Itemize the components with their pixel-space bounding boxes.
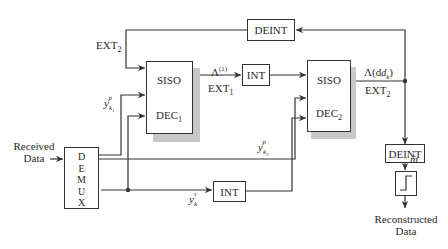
received-data-label: Received Data: [12, 140, 56, 164]
ext2-output-label: EXT2: [365, 84, 390, 101]
ys-to-siso1-arrow: [128, 116, 145, 190]
siso-dec1-block: SISO DEC1: [146, 61, 193, 134]
int-to-siso2-lower-arrow: [246, 118, 306, 191]
siso2-label: SISO: [317, 74, 341, 86]
m-hat-label: m̂: [410, 153, 418, 165]
dec1-label: DEC1: [156, 109, 182, 126]
int-top-label: INT: [247, 69, 265, 81]
junction-dot: [403, 79, 407, 83]
int-bottom-label: INT: [220, 186, 238, 198]
int-top-block: INT: [242, 64, 270, 86]
diagram-connections: [0, 0, 448, 249]
yk1p-label: yk1p: [104, 97, 118, 117]
ext2-feedback-label: EXT2: [96, 39, 121, 56]
junction-dot: [126, 188, 130, 192]
deint-top-label: DEINT: [255, 24, 288, 36]
demux-block: D E M U X: [64, 147, 99, 209]
yk2p-label: yk2p: [258, 141, 272, 161]
siso1-label: SISO: [157, 74, 181, 86]
siso2-shadow-bottom: [311, 131, 356, 139]
siso-dec2-block: SISO DEC2: [307, 60, 351, 132]
step-function-icon: [395, 171, 417, 196]
dec2-label: DEC2: [316, 107, 342, 124]
lambda1-label: Λ(1): [211, 63, 227, 78]
deint-top-block: DEINT: [247, 19, 295, 41]
reconstructed-data-label: Reconstructed Data: [368, 213, 444, 237]
demux-label: D E M U X: [65, 151, 98, 209]
hard-decision-block: [395, 171, 417, 196]
yks-label: yks: [189, 193, 199, 210]
int-bottom-block: INT: [213, 181, 246, 202]
deint-right-block: DEINT: [385, 144, 425, 163]
yk2p-to-siso2-arrow: [98, 98, 306, 159]
ext1-label: EXT1: [208, 82, 233, 99]
lambda-dk-label: Λ(ddk): [364, 66, 393, 83]
